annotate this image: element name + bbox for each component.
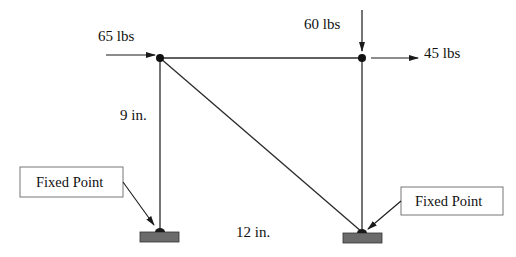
right-support xyxy=(343,229,382,243)
node-top-left xyxy=(156,54,164,62)
dimension-height-label: 9 in. xyxy=(120,107,147,123)
left-support xyxy=(140,228,179,242)
load-label-45: 45 lbs xyxy=(424,45,460,61)
right-fixed-point-callout: Fixed Point xyxy=(368,187,503,229)
left-fixed-point-label: Fixed Point xyxy=(36,174,103,190)
right-fixed-point-label: Fixed Point xyxy=(415,193,482,209)
left-fixed-point-callout: Fixed Point xyxy=(20,167,154,225)
left-callout-arrow-icon xyxy=(123,182,154,225)
left-support-block xyxy=(140,232,179,242)
truss-members xyxy=(160,58,362,232)
node-top-right xyxy=(358,54,366,62)
left-pin-icon xyxy=(155,228,165,232)
load-label-65: 65 lbs xyxy=(98,28,134,44)
member-diagonal xyxy=(160,58,362,232)
right-callout-arrow-icon xyxy=(368,201,401,229)
dimension-width-label: 12 in. xyxy=(236,224,270,240)
load-label-60: 60 lbs xyxy=(304,16,340,32)
right-support-block xyxy=(343,233,382,243)
truss-diagram: 65 lbs 60 lbs 45 lbs 9 in. 12 in. Fixed … xyxy=(0,0,516,257)
